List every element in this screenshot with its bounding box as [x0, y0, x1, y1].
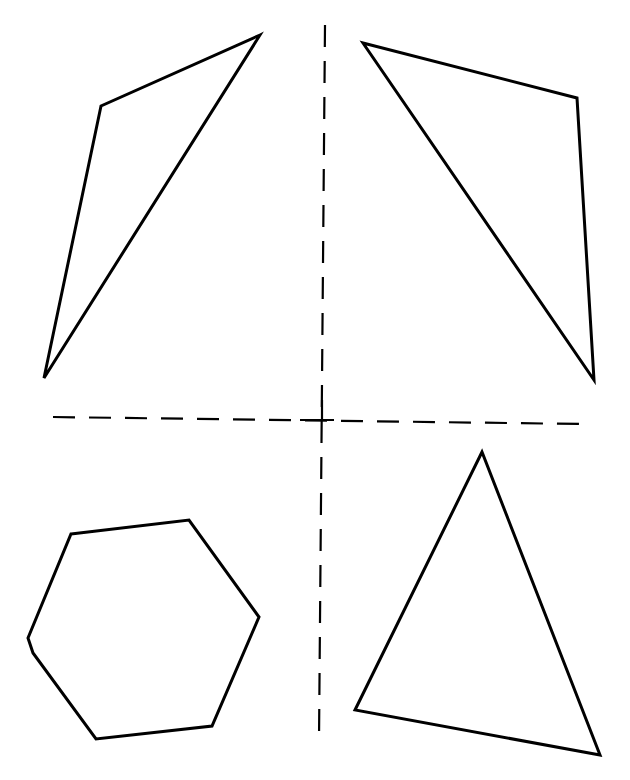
top-right-triangle [363, 43, 594, 380]
bottom-left-hexagon [28, 520, 259, 739]
vertical-dashed-axis [319, 25, 325, 740]
top-left-triangle [44, 35, 260, 378]
geometry-figure [0, 0, 630, 780]
bottom-right-triangle [355, 452, 600, 755]
